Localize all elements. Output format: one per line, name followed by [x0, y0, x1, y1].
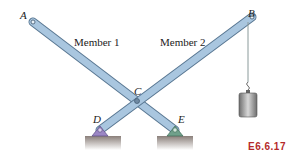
label-member-2: Member 2	[160, 36, 206, 48]
label-member-1: Member 1	[74, 36, 120, 48]
label-e: E	[178, 113, 185, 125]
figure-number: E6.6.17	[248, 141, 286, 152]
pin-a	[31, 20, 35, 24]
label-a: A	[20, 9, 27, 21]
pin-c	[135, 99, 140, 104]
label-b: B	[248, 7, 255, 19]
weight-block	[239, 93, 257, 117]
label-d: D	[93, 113, 101, 125]
ground-e	[157, 136, 193, 150]
truss-diagram	[0, 0, 304, 158]
hook-icon	[247, 82, 250, 90]
ground-d	[85, 136, 121, 150]
label-c: C	[134, 85, 141, 97]
